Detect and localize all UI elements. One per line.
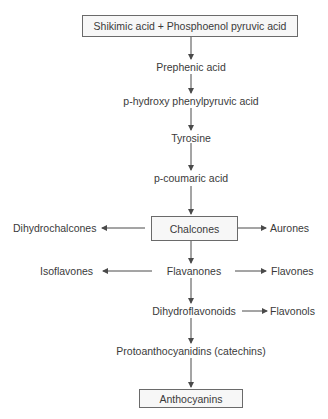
node-start: Shikimic acid + Phosphoenol pyruvic acid [82,15,298,37]
node-p-coumaric-acid: p-coumaric acid [154,172,228,184]
node-start-label: Shikimic acid + Phosphoenol pyruvic acid [94,20,287,32]
node-isoflavones: Isoflavones [40,265,93,277]
node-anthocyanins-label: Anthocyanins [159,393,222,405]
node-anthocyanins: Anthocyanins [139,389,243,408]
node-tyrosine: Tyrosine [171,132,211,144]
node-dihydroflavonoids: Dihydroflavonoids [152,305,235,317]
node-flavones: Flavones [271,265,314,277]
node-aurones: Aurones [270,222,309,234]
node-flavonols: Flavonols [270,305,315,317]
node-chalcones-label: Chalcones [170,223,220,235]
node-p-hydroxy-phenylpyruvic-acid: p-hydroxy phenylpyruvic acid [123,95,258,107]
node-chalcones: Chalcones [151,216,238,241]
node-flavanones: Flavanones [167,265,221,277]
node-dihydrochalcones: Dihydrochalcones [13,222,96,234]
node-protoanthocyanidins: Protoanthocyanidins (catechins) [116,345,265,357]
node-prephenic-acid: Prephenic acid [156,61,225,73]
